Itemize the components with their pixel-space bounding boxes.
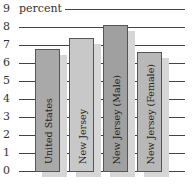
bar-new-jersey-female: New Jersey (Female) [137,52,162,172]
y-tick-label: 6 [3,57,10,68]
gridline [19,45,185,46]
y-tick-label: 0 [3,165,10,176]
y-axis-unit-label: percent [19,3,65,14]
bar-chart: 0123456789percentUnited StatesNew Jersey… [0,0,194,185]
y-tick-label: 2 [3,129,10,140]
bar-label: United States [42,98,53,164]
y-tick-label: 8 [3,21,10,32]
bar-label: New Jersey (Male) [110,75,121,164]
bar-label: New Jersey [76,109,87,164]
bar-new-jersey-male: New Jersey (Male) [103,25,128,172]
gridline [19,27,185,28]
y-tick-label: 9 [3,3,10,14]
y-tick-label: 5 [3,75,10,86]
y-tick-label: 7 [3,39,10,50]
y-tick-label: 3 [3,111,10,122]
bar-label: New Jersey (Female) [144,64,155,164]
y-tick-label: 1 [3,147,10,158]
bar-united-states: United States [35,49,60,172]
y-tick-label: 4 [3,93,10,104]
bar-new-jersey: New Jersey [69,38,94,172]
